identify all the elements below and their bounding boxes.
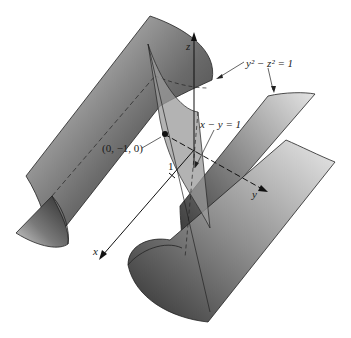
surface-equation-label: y² − z² = 1	[245, 57, 293, 69]
point-leader	[142, 137, 161, 148]
point-label: (0, −1, 0)	[102, 142, 143, 155]
surface-leader-left-arrow	[216, 74, 223, 79]
point-0-neg1-0	[162, 131, 168, 137]
surface-leader-right-arrow	[271, 86, 276, 93]
z-axis-arrowhead	[191, 32, 197, 41]
z-axis-label: z	[185, 40, 191, 52]
plane-equation-label: x − y = 1	[199, 118, 241, 130]
tick-label-1: 1	[168, 160, 174, 172]
x-axis-label: x	[92, 245, 98, 257]
y-axis-label: y	[251, 188, 257, 200]
hyperbolic-cylinder-diagram: z y x y² − z² = 1 x − y = 1 (0, −1, 0) 1	[0, 0, 351, 338]
